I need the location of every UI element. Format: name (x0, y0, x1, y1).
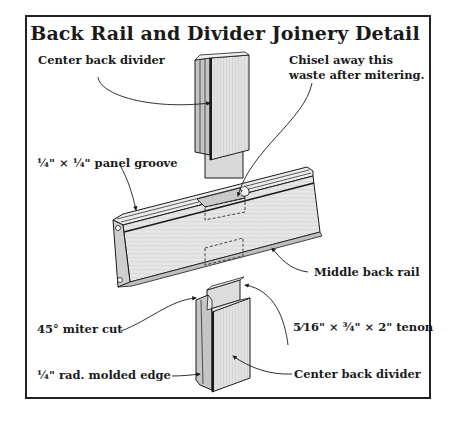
label-middle-back-rail: Middle back rail (314, 265, 420, 280)
label-miter-cut: 45° miter cut (37, 322, 123, 337)
label-panel-groove: ¼" × ¼" panel groove (37, 156, 178, 171)
label-tenon: 5⁄16" × ¾" × 2" tenon (293, 320, 433, 335)
label-center-back-divider-top: Center back divider (38, 53, 165, 68)
leader-center-back-divider-top (98, 77, 210, 105)
top-center-back-divider (195, 52, 249, 178)
label-molded-edge: ¼" rad. molded edge (37, 368, 171, 383)
leader-panel-groove (120, 165, 136, 210)
leader-tenon (245, 285, 288, 345)
leader-miter-cut (121, 298, 196, 331)
bottom-center-back-divider (196, 277, 250, 392)
leader-middle-back-rail (272, 248, 308, 272)
label-chisel-line1: Chisel away this (289, 53, 393, 68)
label-center-back-divider-bottom: Center back divider (294, 367, 421, 382)
label-chisel-line2: waste after mitering. (289, 68, 425, 83)
middle-back-rail (113, 167, 322, 287)
